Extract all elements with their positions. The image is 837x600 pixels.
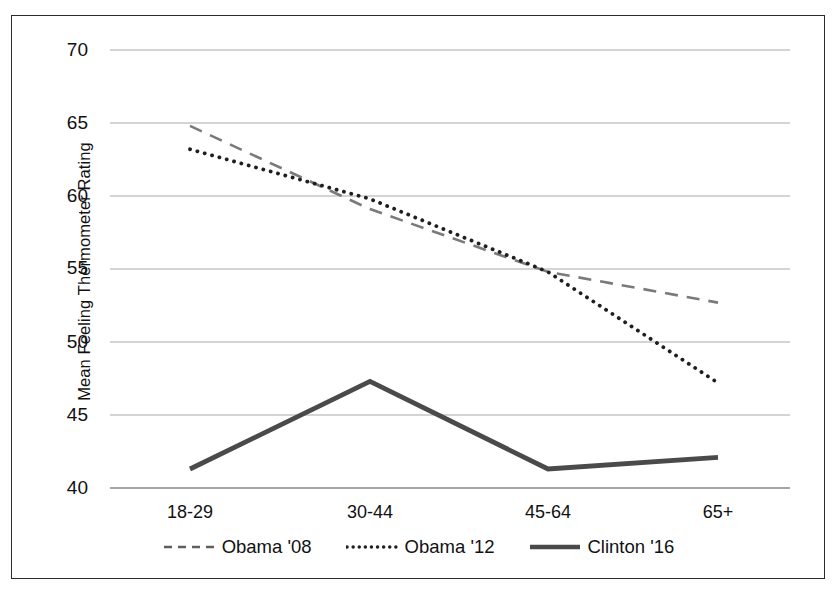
legend-label-obama-12: Obama '12	[405, 536, 495, 558]
legend-label-clinton-16: Clinton '16	[588, 536, 675, 558]
y-tick-label-40: 40	[36, 478, 88, 497]
y-tick-label-45: 45	[36, 405, 88, 424]
legend-label-obama-08: Obama '08	[222, 536, 312, 558]
y-tick-label-60: 60	[36, 186, 88, 205]
y-tick-label-65: 65	[36, 113, 88, 132]
series-line-obama-08	[190, 126, 718, 303]
x-tick-label-45-64: 45-64	[488, 503, 608, 521]
legend-swatch-dashed-icon	[163, 540, 215, 554]
legend-item-clinton-16: Clinton '16	[529, 536, 675, 558]
chart-legend: Obama '08 Obama '12 Clinton '16	[0, 536, 837, 558]
legend-swatch-dotted-icon	[346, 540, 398, 554]
line-chart: Mean Feeling Thermometer Rating 70 65 60…	[0, 0, 837, 600]
y-tick-label-70: 70	[36, 40, 88, 59]
legend-item-obama-08: Obama '08	[163, 536, 312, 558]
series-line-clinton-16	[190, 381, 718, 469]
x-tick-label-30-44: 30-44	[310, 503, 430, 521]
x-tick-label-18-29: 18-29	[130, 503, 250, 521]
x-tick-label-65plus: 65+	[658, 503, 778, 521]
legend-swatch-solid-icon	[529, 540, 581, 554]
y-tick-label-55: 55	[36, 258, 88, 277]
legend-item-obama-12: Obama '12	[346, 536, 495, 558]
series-line-obama-12	[190, 149, 718, 383]
figure-root: Mean Feeling Thermometer Rating 70 65 60…	[0, 0, 837, 600]
y-tick-label-50: 50	[36, 332, 88, 351]
